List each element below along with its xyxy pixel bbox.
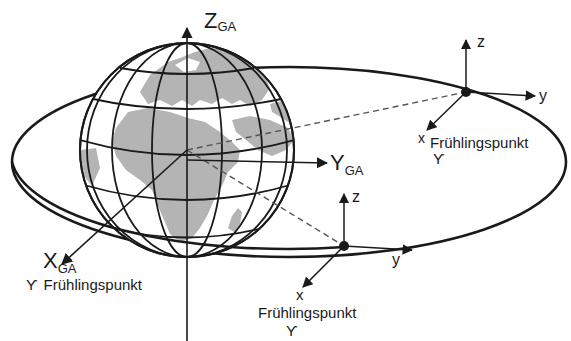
upper-z-label: z — [477, 33, 485, 50]
y-ga-label: YGA — [330, 150, 364, 178]
x-ga-caption: ϒFrühlingspunkt — [26, 276, 143, 293]
satellite-point-upper — [461, 87, 471, 97]
orbit-diagram: ZGA YGA XGA ϒFrühlingspunkt z y x Frühli… — [0, 0, 571, 341]
satellite-point-lower — [339, 241, 349, 251]
upper-x-label: x — [418, 130, 425, 146]
lower-x-label: x — [296, 286, 304, 303]
lower-caption: Frühlingspunkt — [258, 304, 357, 321]
upper-caption: Frühlingspunkt — [430, 134, 529, 151]
lower-caption-symbol: ϒ — [286, 322, 298, 339]
upper-caption-symbol: ϒ — [433, 150, 445, 167]
lower-y-label: y — [392, 251, 400, 268]
orbit-frame-lower: z y x Frühlingspunkt ϒ — [258, 188, 412, 339]
x-ga-label: XGA — [43, 248, 77, 276]
orbit-frame-upper: z y x Frühlingspunkt ϒ — [418, 33, 547, 167]
upper-y-label: y — [539, 87, 547, 104]
z-ga-label: ZGA — [204, 8, 237, 34]
vernal-equinox-symbol: ϒ — [26, 276, 38, 293]
lower-z-label: z — [352, 188, 360, 205]
